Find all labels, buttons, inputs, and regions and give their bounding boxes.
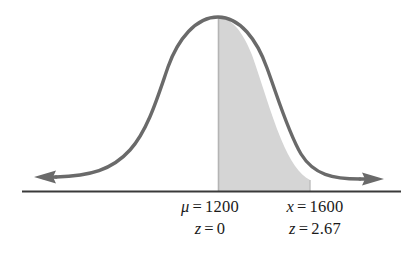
left-arrow-head-icon xyxy=(34,171,56,184)
bell-curve-path xyxy=(56,17,360,179)
normal-distribution-figure: μ=1200 z=0 x=1600 z=2.67 xyxy=(0,0,420,254)
x-value-label-group: x=1600 z=2.67 xyxy=(252,196,378,240)
x-z-equals-sign: = xyxy=(297,219,312,238)
right-arrow-head-icon xyxy=(362,173,384,186)
x-equals-sign: = xyxy=(295,197,310,216)
mean-z-equals-sign: = xyxy=(202,219,217,238)
x-z-value: 2.67 xyxy=(311,219,341,238)
x-label-line-2: z=2.67 xyxy=(252,218,378,240)
mean-equals-sign: = xyxy=(191,197,206,216)
mean-value: 1200 xyxy=(205,197,239,216)
x-symbol: x xyxy=(287,197,296,216)
mean-z-value: 0 xyxy=(217,219,225,238)
x-value: 1600 xyxy=(310,197,344,216)
x-z-symbol: z xyxy=(289,219,297,238)
x-label-line-1: x=1600 xyxy=(252,196,378,218)
mean-symbol: μ xyxy=(181,197,190,216)
shaded-area-region xyxy=(218,17,310,191)
